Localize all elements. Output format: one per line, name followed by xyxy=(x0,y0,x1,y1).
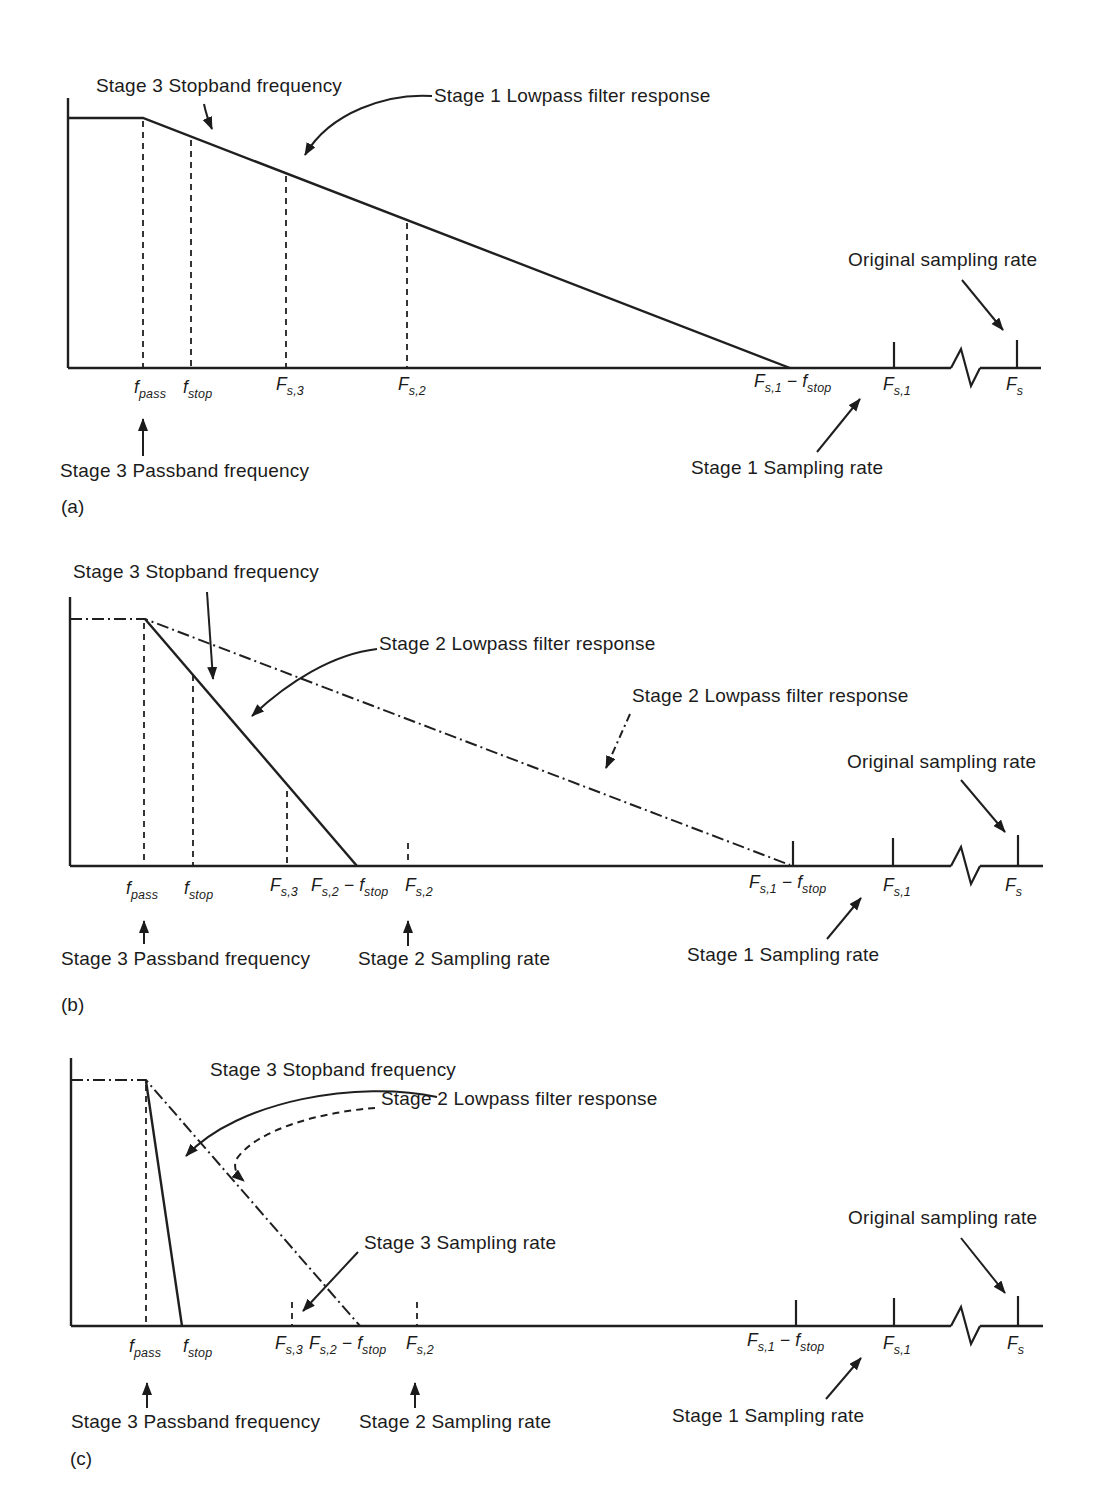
math-sub: s,3 xyxy=(281,885,298,899)
panel-b-axis-label-fs1: Fs,1 xyxy=(883,875,911,896)
panel-a-stopband-arrow xyxy=(204,104,212,129)
panel-c-axis-label-fs1: Fs,1 xyxy=(883,1333,911,1354)
panel-c-stage3-response-line xyxy=(146,1081,182,1326)
panel-c-axis-label-fs3: Fs,3 xyxy=(275,1333,303,1354)
panel-a-axis-label-fstop: fstop xyxy=(183,377,212,398)
math-sub: s,2 xyxy=(409,384,426,398)
panel-b-axis-label-fs2-minus-fstop: Fs,2−fstop xyxy=(311,875,389,896)
math-sub: stop xyxy=(807,381,831,395)
minus-sign: − xyxy=(344,875,354,895)
panel-a-axis-label-fs1-minus-fstop: Fs,1−fstop xyxy=(754,371,832,392)
math-sub: s,1 xyxy=(894,1343,911,1357)
panel-b-stopband-label: Stage 3 Stopband frequency xyxy=(73,562,319,583)
panel-a-original-rate-label: Original sampling rate xyxy=(848,250,1037,271)
panel-c-stage1-rate-label: Stage 1 Sampling rate xyxy=(672,1406,864,1427)
math-sub: s,2 xyxy=(322,885,339,899)
math-sub: s,1 xyxy=(894,885,911,899)
math-sub: s,2 xyxy=(320,1343,337,1357)
panel-a-lowpass-label: Stage 1 Lowpass filter response xyxy=(434,86,711,107)
math-sub: s,1 xyxy=(760,882,777,896)
math-base: F xyxy=(405,875,416,895)
panel-c-stopband-label: Stage 3 Stopband frequency xyxy=(210,1060,456,1081)
minus-sign: − xyxy=(787,371,797,391)
panel-c-stage1-rate-arrow xyxy=(826,1358,861,1399)
figure-multistage-decimation: Stage 3 Stopband frequency Stage 1 Lowpa… xyxy=(0,0,1105,1486)
math-base: F xyxy=(749,872,760,892)
panel-c-axis-label-fs2-minus-fstop: Fs,2−fstop xyxy=(309,1333,387,1354)
panel-c-axis-label-fs1-minus-fstop: Fs,1−fstop xyxy=(747,1330,825,1351)
panel-b-stage2-lowpass-label-right: Stage 2 Lowpass filter response xyxy=(632,686,909,707)
panel-a-original-rate-arrow xyxy=(962,280,1003,330)
math-base: F xyxy=(276,374,287,394)
math-sub: stop xyxy=(188,387,212,401)
panel-b-original-rate-arrow xyxy=(961,780,1005,832)
panel-a-stage1-rate-arrow xyxy=(817,399,860,452)
panel-a-letter: (a) xyxy=(61,496,84,518)
panel-b-axis-label-fs: Fs xyxy=(1005,875,1022,896)
panel-b-passband-label: Stage 3 Passband frequency xyxy=(61,949,310,970)
panel-a-axis-break xyxy=(951,349,980,386)
panel-a-passband-label: Stage 3 Passband frequency xyxy=(60,461,309,482)
panel-b-stage2-lowpass-arrow xyxy=(252,649,377,716)
minus-sign: − xyxy=(780,1330,790,1350)
panel-b-stage1-dashdot-arrow xyxy=(606,714,630,768)
panel-c-stage2-rate-label: Stage 2 Sampling rate xyxy=(359,1412,551,1433)
panel-a-axis-label-fpass: fpass xyxy=(134,377,166,398)
panel-b-axis-label-fs2: Fs,2 xyxy=(405,875,433,896)
math-base: F xyxy=(309,1333,320,1353)
math-base: F xyxy=(311,875,322,895)
panel-b-axis-label-fs3: Fs,3 xyxy=(270,875,298,896)
panel-b-stage2-rate-label: Stage 2 Sampling rate xyxy=(358,949,550,970)
math-sub: s,1 xyxy=(765,381,782,395)
minus-sign: − xyxy=(782,872,792,892)
panel-c-stage3-rate-label: Stage 3 Sampling rate xyxy=(364,1233,556,1254)
panel-b-axis-label-fs1-minus-fstop: Fs,1−fstop xyxy=(749,872,827,893)
panel-c-stage2-response-dashdot-line xyxy=(71,1080,360,1326)
math-sub: s xyxy=(1018,1343,1024,1357)
math-sub: s,2 xyxy=(416,885,433,899)
panel-b-axis-break xyxy=(951,847,980,884)
math-base: F xyxy=(398,374,409,394)
panel-c-stage2-lowpass-dashed-arrow xyxy=(235,1108,375,1181)
panel-c-axis-break xyxy=(951,1307,980,1344)
panel-b-axis-label-fstop: fstop xyxy=(184,878,213,899)
math-sub: s,1 xyxy=(894,384,911,398)
panel-a-stage1-rate-label: Stage 1 Sampling rate xyxy=(691,458,883,479)
panel-a-axis-label-fs2: Fs,2 xyxy=(398,374,426,395)
math-sub: s,3 xyxy=(287,384,304,398)
panel-b-stage1-rate-label: Stage 1 Sampling rate xyxy=(687,945,879,966)
math-sub: pass xyxy=(134,1346,161,1360)
math-base: F xyxy=(754,371,765,391)
panel-c-axis-label-fs2: Fs,2 xyxy=(406,1333,434,1354)
math-sub: s xyxy=(1016,885,1022,899)
math-base: F xyxy=(747,1330,758,1350)
math-sub: s,2 xyxy=(417,1343,434,1357)
math-base: F xyxy=(270,875,281,895)
panel-b-letter: (b) xyxy=(61,994,84,1016)
panel-c-original-rate-label: Original sampling rate xyxy=(848,1208,1037,1229)
panel-b-stage2-lowpass-label: Stage 2 Lowpass filter response xyxy=(379,634,656,655)
panel-b-stopband-arrow xyxy=(207,592,213,679)
panel-b-axis-label-fpass: fpass xyxy=(126,878,158,899)
panel-a-axis-label-fs: Fs xyxy=(1006,374,1023,395)
panel-b-stage1-rate-arrow xyxy=(827,898,861,939)
math-sub: s,1 xyxy=(758,1340,775,1354)
panel-c-original-rate-arrow xyxy=(961,1238,1005,1293)
math-base: F xyxy=(883,374,894,394)
panel-b-stage2-response-line xyxy=(145,619,357,866)
panel-c-letter: (c) xyxy=(70,1448,92,1470)
panel-a-lowpass-arrow xyxy=(305,96,432,155)
math-sub: stop xyxy=(802,882,826,896)
math-sub: pass xyxy=(131,888,158,902)
diagram-canvas xyxy=(0,0,1105,1486)
math-base: F xyxy=(275,1333,286,1353)
math-base: F xyxy=(406,1333,417,1353)
panel-c-passband-label: Stage 3 Passband frequency xyxy=(71,1412,320,1433)
panel-c-stage2-lowpass-label: Stage 2 Lowpass filter response xyxy=(381,1089,658,1110)
panel-c-axis-label-fpass: fpass xyxy=(129,1336,161,1357)
math-base: F xyxy=(1006,374,1017,394)
math-sub: stop xyxy=(188,1346,212,1360)
math-base: F xyxy=(883,875,894,895)
math-sub: s xyxy=(1017,384,1023,398)
panel-c-stage3-rate-arrow xyxy=(303,1252,358,1311)
